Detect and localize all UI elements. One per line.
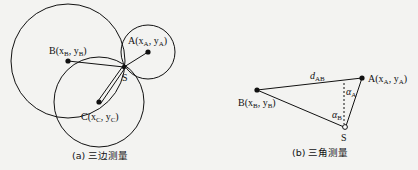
caption-b: (b) 三角测量 (292, 147, 348, 158)
label-s: S (341, 132, 347, 143)
point-b (65, 58, 70, 63)
point-s (343, 125, 348, 130)
label-b: B(xB, yB) (238, 97, 276, 110)
point-a (359, 75, 364, 80)
line-b-s (68, 61, 124, 67)
label-s: S (122, 72, 128, 83)
label-c: C(xC, yC) (81, 111, 119, 124)
caption-a: (a) 三边测量 (72, 150, 128, 161)
label-alpha-b: αB (332, 109, 342, 122)
label-a: A(xA, yA) (128, 35, 167, 48)
label-a: A(xA, yA) (368, 73, 407, 86)
line-a-s (124, 52, 148, 67)
label-b: B(xB, yB) (49, 45, 87, 58)
point-s (122, 65, 126, 69)
label-dab: dAB (310, 70, 325, 83)
point-b (254, 87, 259, 92)
point-c (96, 99, 101, 104)
trilateration-figure (11, 4, 175, 147)
point-a (145, 49, 150, 54)
localization-diagram: A(xA, yA) B(xB, yB) C(xC, yC) S (a) 三边测量… (0, 0, 418, 170)
line-c-s-1 (98, 66, 123, 101)
label-alpha-a: αA (346, 86, 356, 99)
